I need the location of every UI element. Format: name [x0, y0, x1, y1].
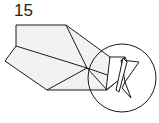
paper-body — [5, 25, 116, 90]
origami-diagram — [0, 0, 159, 123]
folded-tip — [106, 57, 139, 98]
